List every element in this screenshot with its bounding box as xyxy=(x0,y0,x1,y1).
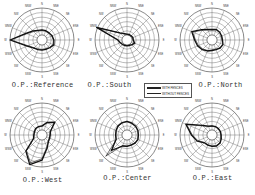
svg-text:NNW: NNW xyxy=(195,4,202,8)
svg-text:WNW: WNW xyxy=(175,24,182,28)
svg-text:E: E xyxy=(78,38,80,42)
legend: WITH FENCES WITHOUT FENCES xyxy=(144,83,192,98)
svg-text:SSW: SSW xyxy=(25,167,31,171)
svg-text:NNE: NNE xyxy=(223,99,229,103)
svg-text:NNW: NNW xyxy=(110,99,117,103)
svg-text:SE: SE xyxy=(66,159,70,163)
chart-title: O.P.:West xyxy=(0,176,85,184)
svg-text:SSE: SSE xyxy=(138,72,143,76)
legend-label: WITH FENCES xyxy=(162,86,183,90)
windrose-east: NNNENEENEEESESESSESSSWSWWSWWWNWNWNNW O.P… xyxy=(170,95,255,192)
svg-text:SSE: SSE xyxy=(53,72,58,76)
svg-text:NNE: NNE xyxy=(138,4,144,8)
legend-item-with-fences: WITH FENCES xyxy=(147,85,183,90)
svg-text:SW: SW xyxy=(14,64,19,68)
svg-text:SW: SW xyxy=(99,159,104,163)
svg-text:WSW: WSW xyxy=(5,147,12,151)
svg-text:ENE: ENE xyxy=(73,24,79,28)
svg-text:SW: SW xyxy=(184,64,189,68)
svg-text:SE: SE xyxy=(236,159,240,163)
thin-line-swatch xyxy=(147,93,161,94)
svg-text:S: S xyxy=(41,75,43,79)
thick-line-swatch xyxy=(147,87,161,89)
svg-text:W: W xyxy=(174,38,177,42)
svg-text:NE: NE xyxy=(236,107,240,111)
svg-text:ESE: ESE xyxy=(158,52,163,56)
svg-text:WSW: WSW xyxy=(90,52,97,56)
svg-text:ESE: ESE xyxy=(243,52,248,56)
svg-text:SSW: SSW xyxy=(195,72,201,76)
svg-text:SSE: SSE xyxy=(223,167,228,171)
svg-text:W: W xyxy=(4,133,7,137)
svg-text:NW: NW xyxy=(99,107,104,111)
svg-text:NW: NW xyxy=(14,107,19,111)
svg-text:NW: NW xyxy=(184,107,189,111)
legend-label: WITHOUT FENCES xyxy=(162,92,189,96)
svg-text:ENE: ENE xyxy=(73,119,79,123)
svg-text:W: W xyxy=(174,133,177,137)
svg-text:ENE: ENE xyxy=(158,24,164,28)
svg-text:N: N xyxy=(41,97,43,101)
svg-text:ENE: ENE xyxy=(243,24,249,28)
svg-text:NNW: NNW xyxy=(195,99,202,103)
svg-text:SE: SE xyxy=(151,159,155,163)
svg-text:W: W xyxy=(89,38,92,42)
svg-text:S: S xyxy=(211,170,213,174)
svg-text:NW: NW xyxy=(14,12,19,16)
svg-text:ESE: ESE xyxy=(243,147,248,151)
svg-text:SSE: SSE xyxy=(223,72,228,76)
legend-item-without-fences: WITHOUT FENCES xyxy=(147,91,189,96)
svg-text:S: S xyxy=(126,75,128,79)
svg-text:S: S xyxy=(211,75,213,79)
svg-text:S: S xyxy=(41,170,43,174)
svg-text:NNW: NNW xyxy=(25,4,32,8)
svg-text:WNW: WNW xyxy=(175,119,182,123)
windrose-west: NNNENEENEEESESESSESSSWSWWSWWWNWNWNNW O.P… xyxy=(0,95,85,192)
svg-text:NW: NW xyxy=(99,12,104,16)
svg-text:SSE: SSE xyxy=(138,167,143,171)
svg-text:WSW: WSW xyxy=(175,52,182,56)
svg-text:NE: NE xyxy=(236,12,240,16)
svg-text:N: N xyxy=(126,2,128,6)
svg-text:N: N xyxy=(211,2,213,6)
svg-text:E: E xyxy=(163,133,165,137)
svg-text:SSW: SSW xyxy=(110,167,116,171)
svg-text:ESE: ESE xyxy=(73,52,78,56)
chart-title: O.P.:Center xyxy=(85,174,170,182)
svg-text:SE: SE xyxy=(66,64,70,68)
svg-text:WNW: WNW xyxy=(5,24,12,28)
svg-text:SE: SE xyxy=(151,64,155,68)
svg-text:E: E xyxy=(163,38,165,42)
svg-text:WNW: WNW xyxy=(5,119,12,123)
svg-text:E: E xyxy=(248,38,250,42)
svg-text:NE: NE xyxy=(151,12,155,16)
svg-text:S: S xyxy=(126,170,128,174)
svg-text:NNE: NNE xyxy=(53,99,59,103)
svg-text:WSW: WSW xyxy=(175,147,182,151)
svg-text:SSE: SSE xyxy=(53,167,58,171)
chart-title: O.P.:East xyxy=(170,174,255,182)
svg-text:NW: NW xyxy=(184,12,189,16)
svg-text:NE: NE xyxy=(151,107,155,111)
svg-text:WSW: WSW xyxy=(5,52,12,56)
svg-text:WSW: WSW xyxy=(90,147,97,151)
svg-text:N: N xyxy=(126,97,128,101)
svg-text:N: N xyxy=(211,97,213,101)
svg-text:SW: SW xyxy=(14,159,19,163)
svg-text:SW: SW xyxy=(99,64,104,68)
svg-text:SSW: SSW xyxy=(195,167,201,171)
svg-text:ESE: ESE xyxy=(158,147,163,151)
svg-text:NE: NE xyxy=(66,107,70,111)
svg-text:NNW: NNW xyxy=(25,99,32,103)
svg-text:NE: NE xyxy=(66,12,70,16)
svg-text:SW: SW xyxy=(184,159,189,163)
svg-text:W: W xyxy=(4,38,7,42)
svg-text:WNW: WNW xyxy=(90,119,97,123)
svg-text:E: E xyxy=(78,133,80,137)
svg-text:ENE: ENE xyxy=(243,119,249,123)
svg-text:ENE: ENE xyxy=(158,119,164,123)
svg-text:E: E xyxy=(248,133,250,137)
svg-text:SE: SE xyxy=(236,64,240,68)
svg-text:NNW: NNW xyxy=(110,4,117,8)
svg-text:ESE: ESE xyxy=(73,147,78,151)
